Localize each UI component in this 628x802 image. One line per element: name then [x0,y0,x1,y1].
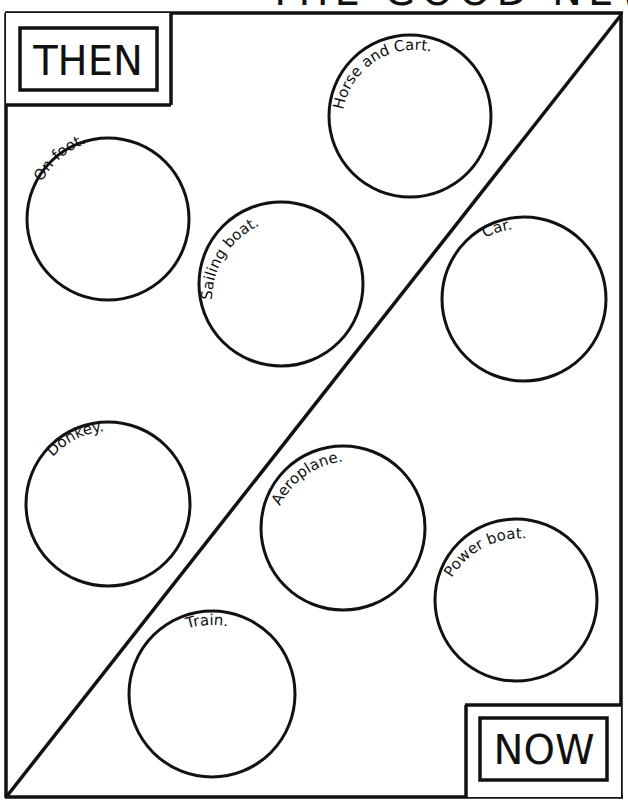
circle-power-boat: Power boat. [435,519,597,681]
then-label: THEN [32,38,143,84]
then-label-box: THEN [6,13,171,105]
now-label: NOW [494,727,595,773]
circle-aeroplane: Aeroplane. [261,446,425,610]
circle-car: Car. [442,215,606,381]
circle-horse-and-cart: Horse and Cart. [329,35,491,197]
circle-donkey: Donkey. [26,417,190,586]
circle-on-foot: On foot. [27,130,189,300]
circle-train: Train. [129,611,295,777]
now-label-box: NOW [465,705,621,797]
circle-sailing-boat: Sailing boat. [198,202,363,366]
